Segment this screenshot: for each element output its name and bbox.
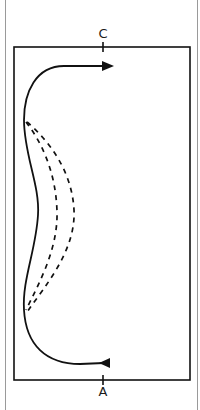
dashed-path-1 [26, 122, 57, 310]
inner-rectangle [14, 47, 190, 380]
solid-path [24, 66, 104, 364]
label-a: A [99, 385, 108, 398]
path-diagram [0, 0, 200, 410]
label-c: C [98, 27, 107, 40]
arrow-head-right-icon [102, 61, 114, 71]
dashed-path-2 [27, 122, 74, 312]
arrow-tail-left-icon [99, 358, 110, 368]
